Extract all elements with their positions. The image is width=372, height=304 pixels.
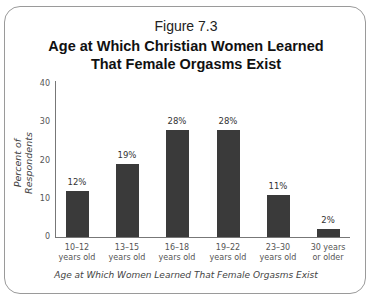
x-tick-label-line: 30 years [303, 243, 353, 253]
x-tick-label: 13–15years old [102, 243, 152, 263]
bar-value-label: 12% [57, 177, 97, 187]
y-axis [55, 81, 56, 238]
x-axis [55, 237, 350, 238]
x-tick-label: 16–18years old [152, 243, 202, 263]
x-tick-label-line: years old [52, 253, 102, 263]
x-tick-label: 23–30years old [253, 243, 303, 263]
x-tick-label: 19–22years old [203, 243, 253, 263]
x-tick-label-line: or older [303, 253, 353, 263]
y-tick-label: 40 [36, 79, 50, 88]
x-tick-label: 10–12years old [52, 243, 102, 263]
x-axis-label: Age at Which Women Learned That Female O… [0, 270, 372, 280]
bar-value-label: 28% [208, 116, 248, 126]
x-tick-label-line: 23–30 [253, 243, 303, 253]
x-tick-label-line: 19–22 [203, 243, 253, 253]
bar [116, 164, 139, 237]
y-axis-label: Percent of Respondents [12, 118, 34, 208]
y-tick-label: 30 [36, 117, 50, 126]
x-tick-label: 30 yearsor older [303, 243, 353, 263]
x-tick-label-line: years old [102, 253, 152, 263]
x-tick-label-line: years old [152, 253, 202, 263]
x-tick-label-line: years old [203, 253, 253, 263]
bar-value-label: 28% [157, 116, 197, 126]
x-tick-label-line: 10–12 [52, 243, 102, 253]
bar [217, 130, 240, 237]
y-tick-label: 20 [36, 156, 50, 165]
chart-title-line-2: That Female Orgasms Exist [0, 55, 372, 73]
bar-value-label: 19% [107, 150, 147, 160]
y-tick-label: 10 [36, 194, 50, 203]
bar-value-label: 11% [258, 181, 298, 191]
figure-number: Figure 7.3 [0, 18, 372, 34]
y-tick-label: 0 [36, 232, 50, 241]
chart-title: Age at Which Christian Women Learned Tha… [0, 37, 372, 73]
chart-title-line-1: Age at Which Christian Women Learned [0, 37, 372, 55]
bar [317, 229, 340, 237]
x-tick-label-line: 13–15 [102, 243, 152, 253]
x-tick-label-line: 16–18 [152, 243, 202, 253]
bar [267, 195, 290, 237]
bar [166, 130, 189, 237]
bar [66, 191, 89, 237]
x-tick-label-line: years old [253, 253, 303, 263]
bar-value-label: 2% [308, 215, 348, 225]
